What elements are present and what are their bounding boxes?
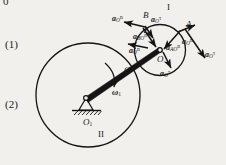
vec-sup: τ [159, 15, 161, 21]
pivot-label-sub: 1 [90, 121, 93, 127]
label-a-o-n-left: aOn [129, 47, 140, 56]
label-a-o-tau-top: aOτ [151, 16, 161, 25]
label-a-o-tau-right: aOτ [205, 51, 215, 60]
vec-sup: n [190, 37, 193, 43]
omega-sub: 1 [118, 91, 121, 97]
vector-a-o-tau-bottom [163, 52, 171, 68]
body-two-roman: II [98, 130, 104, 139]
vec-sup: n [177, 43, 180, 49]
ground-hatching [74, 111, 102, 115]
vec-sup: n [137, 46, 140, 52]
cut-char: 0 [3, 0, 9, 7]
vec-sup: τ [168, 69, 170, 75]
pivot-label-o1: O1 [83, 118, 92, 127]
center-o-dot [158, 48, 163, 53]
point-label-a: A [186, 20, 192, 29]
margin-label-2: (2) [5, 99, 18, 110]
margin-label-1: (1) [5, 39, 18, 50]
omega-label: ω1 [112, 88, 121, 97]
vec-sup: τ [213, 50, 215, 56]
vector-a-o-n-upper-left [124, 22, 145, 27]
point-label-b: B [143, 11, 149, 20]
point-label-c: C [124, 66, 130, 75]
label-a-o-n-right: aOn [182, 38, 193, 47]
label-a-o-tau-bottom: aOτ [160, 70, 170, 79]
point-label-o: O [157, 55, 164, 64]
body-one-roman: I [167, 3, 170, 12]
vec-sup: n [144, 32, 147, 38]
figure-canvas: 0 (1) (2) I II B A C O O1 ω1 aOn aOτ aBO… [0, 0, 226, 165]
label-a-bo-n: aBOn [133, 33, 147, 42]
pivot-joint [84, 96, 89, 101]
label-a-o-n-upper-left: aOn [112, 15, 123, 24]
wheel-two-circle [36, 43, 140, 147]
diagram-svg [0, 0, 226, 165]
label-a-ao-n-inner: aAOn [166, 44, 180, 53]
vec-sup: n [120, 14, 123, 20]
